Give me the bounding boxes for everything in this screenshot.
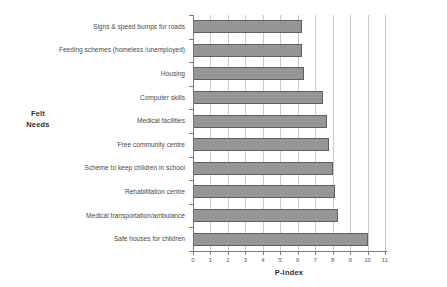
x-axis-tick [210,251,211,255]
bar-row [193,227,385,251]
bar-row [193,15,385,39]
category-label: Rehabilitation centre [125,188,185,196]
y-axis-line [193,15,194,251]
x-axis-tick [193,251,194,255]
x-axis-tick [385,251,386,255]
bar-row [193,62,385,86]
category-label: Medical transportation/ambulance [86,212,185,220]
bar [193,185,335,198]
bar-row [193,133,385,157]
bar-row [193,204,385,228]
y-axis-tick [189,133,193,134]
bar-row [193,157,385,181]
category-label: Medical facilities [137,117,185,125]
bar-row [193,86,385,110]
x-axis-tick [263,251,264,255]
y-axis-tick [189,15,193,16]
gridline-11 [385,15,386,251]
category-label: Safe houses for children [114,235,185,243]
y-axis-tick [189,62,193,63]
y-axis-tick [189,251,193,252]
x-axis-line [193,251,387,252]
category-label: Housing [161,70,185,78]
category-label: Computer skills [140,94,185,102]
bar-row [193,39,385,63]
y-axis-tick [189,39,193,40]
x-axis-tick-label: 11 [375,257,395,263]
bar-chart: Felt Needs Signs & speed bumps for roads… [0,0,447,287]
bar [193,44,302,57]
category-axis-labels: Signs & speed bumps for roadsFeeding sch… [0,15,189,251]
x-axis-tick [280,251,281,255]
x-axis-tick [368,251,369,255]
x-axis-tick [245,251,246,255]
bar [193,138,329,151]
x-axis-tick [350,251,351,255]
bar [193,20,302,33]
x-axis-tick [298,251,299,255]
x-axis-title: P-Index [193,268,385,277]
bar [193,233,368,246]
y-axis-tick [189,227,193,228]
bar [193,67,304,80]
y-axis-tick [189,86,193,87]
bar [193,91,323,104]
x-axis-tick [333,251,334,255]
bar-row [193,109,385,133]
bar [193,115,327,128]
x-axis-tick [315,251,316,255]
y-axis-tick [189,204,193,205]
category-label: Free community centre [118,141,185,149]
category-label: Signs & speed bumps for roads [93,23,185,31]
category-label: Feeding schemes (homeless /unemployed) [59,46,185,54]
y-axis-tick [189,180,193,181]
y-axis-tick [189,109,193,110]
bar [193,209,338,222]
bar [193,162,333,175]
y-axis-tick [189,157,193,158]
category-label: Scheme to keep children in school [85,164,185,172]
bar-row [193,180,385,204]
x-axis-tick [228,251,229,255]
plot-area [193,15,385,251]
